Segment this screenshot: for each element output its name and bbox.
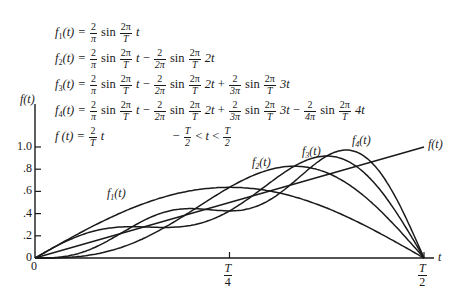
x-ticks bbox=[230, 252, 425, 258]
y-axis-label: f(t) bbox=[20, 92, 35, 107]
equation-f3: f3(t) = 2π sin 2πT t − 22π sin 2πT 2t + … bbox=[55, 74, 290, 96]
y-ticks bbox=[35, 147, 41, 236]
chart-canvas bbox=[0, 0, 462, 296]
x-tick-label: 0 bbox=[31, 259, 37, 274]
curves bbox=[35, 147, 424, 258]
series-label: f3(t) bbox=[302, 144, 321, 160]
series-label: f1(t) bbox=[107, 186, 126, 202]
equation-f: f (t) = 2T t − T2 < t < T2 bbox=[55, 126, 232, 148]
y-tick-label: .2 bbox=[23, 228, 32, 243]
series-ft bbox=[35, 147, 424, 258]
y-tick-label: 1.0 bbox=[17, 139, 32, 154]
series-label: f2(t) bbox=[252, 155, 271, 171]
x-tick-label: T2 bbox=[417, 262, 428, 288]
equation-f4: f4(t) = 2π sin 2πT t − 22π sin 2πT 2t + … bbox=[55, 100, 365, 122]
y-tick-label: .6 bbox=[23, 183, 32, 198]
equation-f1: f1(t) = 2π sin 2πT t bbox=[55, 22, 140, 44]
x-tick-label: T4 bbox=[223, 262, 234, 288]
series-f3t bbox=[35, 156, 424, 258]
series-f2t bbox=[35, 166, 424, 258]
equation-f2: f2(t) = 2π sin 2πT t − 22π sin 2πT 2t bbox=[55, 48, 215, 70]
x-axis-label: t bbox=[438, 250, 441, 265]
series-label: f4(t) bbox=[352, 133, 371, 149]
y-tick-label: .8 bbox=[23, 161, 32, 176]
series-label: f(t) bbox=[428, 137, 443, 152]
y-tick-label: .4 bbox=[23, 206, 32, 221]
